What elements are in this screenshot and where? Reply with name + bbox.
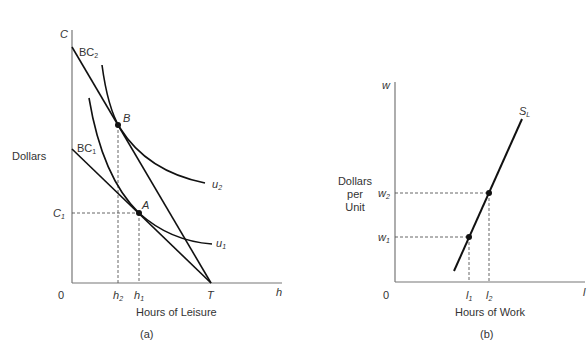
tick-c1: C1: [53, 207, 65, 220]
panel-a: C BC2 BC1 B A u2 u1 Dollars C1 0 h2 h1 T…: [12, 28, 282, 340]
bc1-label: BC1: [77, 142, 96, 155]
caption-a: (a): [140, 328, 153, 340]
u2-label: u2: [212, 178, 222, 191]
tick-w1: w1: [378, 231, 390, 244]
bc2-label: BC2: [79, 46, 98, 59]
budget-line-bc2: [72, 47, 211, 283]
caption-b: (b): [480, 328, 493, 340]
y-axis-label-1: Dollars: [338, 175, 373, 187]
x-axis-label: Hours of Leisure: [136, 306, 217, 318]
tick-l1: l1: [466, 289, 472, 302]
tick-w2: w2: [378, 187, 390, 200]
tick-t: T: [207, 289, 215, 301]
point-a-label: A: [141, 199, 149, 211]
tick-h2: h2: [113, 289, 123, 302]
origin-label: 0: [383, 289, 389, 301]
sl-label: SL: [519, 105, 530, 118]
tick-l2: l2: [486, 289, 492, 302]
x-axis-symbol: l: [583, 286, 586, 298]
origin-label: 0: [58, 289, 64, 301]
u1-label: u1: [216, 237, 226, 250]
indifference-curve-u1: [89, 98, 212, 244]
y-axis-symbol: w: [382, 79, 391, 91]
y-axis-label: Dollars: [12, 150, 47, 162]
point-b-label: B: [123, 112, 130, 124]
y-axis-symbol: C: [60, 28, 68, 40]
point-w2: [486, 190, 492, 196]
y-axis-label-3: Unit: [345, 201, 365, 213]
tick-h1: h1: [134, 289, 144, 302]
point-w1: [466, 234, 472, 240]
panel-b: w SL Dollars per Unit w2 w1 0 l1 l2 l Ho…: [338, 79, 586, 340]
figure: C BC2 BC1 B A u2 u1 Dollars C1 0 h2 h1 T…: [0, 0, 588, 352]
x-axis-label: Hours of Work: [455, 306, 526, 318]
point-b: [115, 122, 121, 128]
x-axis-symbol: h: [276, 286, 282, 298]
y-axis-label-2: per: [347, 188, 363, 200]
